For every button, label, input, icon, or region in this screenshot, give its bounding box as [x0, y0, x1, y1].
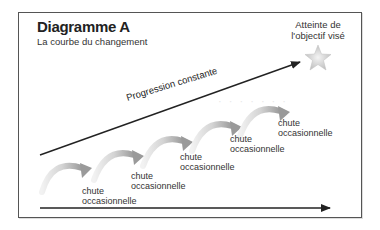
- drop-label-line1: chute: [180, 152, 235, 162]
- drop-label-line2: occasionnelle: [278, 128, 333, 138]
- drop-label-5: chute occasionnelle: [278, 118, 333, 138]
- drop-label-line2: occasionnelle: [131, 181, 186, 191]
- drop-label-line2: occasionnelle: [82, 196, 137, 206]
- drop-label-line2: occasionnelle: [180, 162, 235, 172]
- drop-label-1: chute occasionnelle: [82, 186, 137, 206]
- star-icon: [305, 45, 331, 70]
- drop-label-2: chute occasionnelle: [131, 171, 186, 191]
- drop-label-line1: chute: [82, 186, 137, 196]
- drop-label-line2: occasionnelle: [230, 144, 285, 154]
- drop-label-line1: chute: [278, 118, 333, 128]
- drop-label-4: chute occasionnelle: [230, 134, 285, 154]
- drop-label-line1: chute: [230, 134, 285, 144]
- drop-label-line1: chute: [131, 171, 186, 181]
- diagram-graphics: [0, 0, 380, 230]
- drop-label-3: chute occasionnelle: [180, 152, 235, 172]
